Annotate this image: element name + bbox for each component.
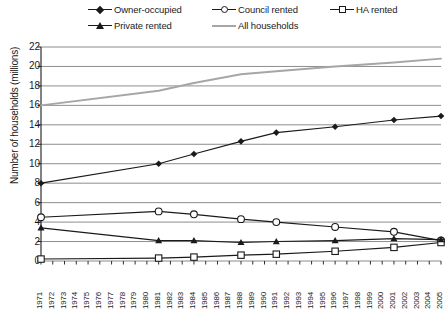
plot-lines	[0, 0, 445, 309]
household-tenure-chart: Owner-occupied Council rented HA rented …	[0, 0, 445, 309]
plot-area: Number of households (millions) 22201816…	[0, 0, 445, 309]
